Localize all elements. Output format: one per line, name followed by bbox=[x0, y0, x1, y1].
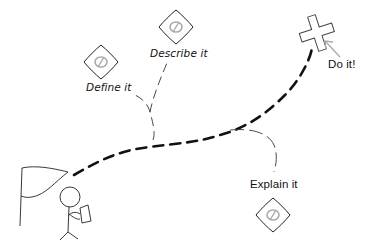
flag-icon bbox=[20, 167, 68, 226]
describe-label: Describe it bbox=[150, 47, 208, 59]
define-label: Define it bbox=[86, 81, 132, 93]
arrow-icon bbox=[325, 41, 340, 57]
stick-figure-icon bbox=[60, 187, 91, 240]
explain-sign-icon bbox=[256, 198, 290, 232]
branch-explain bbox=[230, 130, 276, 172]
define-sign-icon bbox=[84, 45, 118, 79]
do-label: Do it! bbox=[328, 58, 355, 70]
branch-define bbox=[133, 94, 154, 140]
describe-sign-icon bbox=[159, 10, 193, 44]
explain-label: Explain it bbox=[250, 178, 298, 190]
journey-diagram bbox=[0, 0, 376, 251]
branch-describe bbox=[150, 60, 168, 112]
